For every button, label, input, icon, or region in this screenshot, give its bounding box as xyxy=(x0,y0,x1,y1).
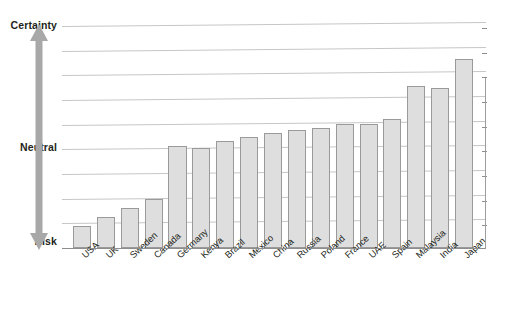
risk-certainty-arrow-icon xyxy=(28,24,50,250)
bar xyxy=(97,217,115,248)
y-axis-right-spine xyxy=(485,78,486,249)
bar xyxy=(216,141,234,248)
x-axis-baseline xyxy=(62,248,486,249)
chart-canvas: Certainty Neutral Risk USAUKSwedenCanada… xyxy=(0,0,506,319)
y-axis-tick xyxy=(482,28,487,29)
gridline xyxy=(62,71,486,76)
bar xyxy=(264,133,282,248)
bar xyxy=(431,88,449,248)
bar xyxy=(121,208,139,248)
bar xyxy=(360,124,378,248)
bar xyxy=(240,137,258,248)
gridline xyxy=(62,47,486,52)
bar xyxy=(383,119,401,248)
bar xyxy=(407,86,425,248)
bar xyxy=(455,59,473,248)
bar xyxy=(312,128,330,248)
bar xyxy=(336,124,354,248)
gridline xyxy=(62,22,486,27)
y-axis-tick xyxy=(482,53,487,54)
bar xyxy=(288,130,306,248)
